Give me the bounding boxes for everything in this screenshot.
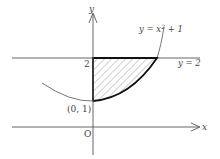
graph: y x O 2 (0, 1) y = 2 y = x2 + 1 — [0, 0, 220, 159]
origin-label: O — [84, 129, 91, 139]
y-axis-label: y — [88, 4, 95, 14]
curve-label: y = x2 + 1 — [138, 23, 183, 34]
point-label: (0, 1) — [67, 104, 91, 114]
shaded-region — [93, 58, 157, 101]
line-label: y = 2 — [177, 58, 201, 68]
y-tick-label-2: 2 — [84, 59, 90, 69]
x-axis-label: x — [202, 122, 207, 132]
